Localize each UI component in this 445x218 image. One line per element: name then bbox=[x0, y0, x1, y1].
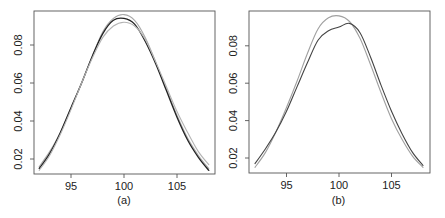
x-tick-label: 95 bbox=[280, 179, 292, 191]
x-tick-label: 105 bbox=[382, 179, 400, 191]
plot-frame bbox=[249, 11, 430, 173]
panel-label: (b) bbox=[332, 194, 345, 206]
figure-two-panel-density-plots: 951001050.020.040.060.08(a) 951001050.02… bbox=[0, 0, 445, 218]
series-line bbox=[255, 16, 423, 168]
panel-label: (a) bbox=[117, 194, 130, 206]
x-tick-label: 105 bbox=[168, 180, 186, 192]
x-tick-label: 100 bbox=[330, 179, 348, 191]
y-tick-label: 0.02 bbox=[12, 148, 24, 169]
plot-frame bbox=[34, 11, 215, 174]
y-tick-label: 0.08 bbox=[227, 35, 239, 56]
y-tick-label: 0.06 bbox=[227, 72, 239, 93]
panel-b: 951001050.020.040.060.08(b) bbox=[227, 11, 430, 206]
panel-a: 951001050.020.040.060.08(a) bbox=[12, 11, 215, 206]
series-line bbox=[39, 18, 209, 170]
y-tick-label: 0.02 bbox=[227, 147, 239, 168]
x-tick-label: 95 bbox=[65, 180, 77, 192]
y-tick-label: 0.08 bbox=[12, 34, 24, 55]
series-line bbox=[255, 23, 423, 165]
y-tick-label: 0.04 bbox=[227, 110, 239, 131]
y-tick-label: 0.04 bbox=[12, 110, 24, 131]
series-line bbox=[39, 15, 209, 169]
series-line bbox=[39, 22, 209, 170]
y-tick-label: 0.06 bbox=[12, 72, 24, 93]
x-tick-label: 100 bbox=[115, 180, 133, 192]
